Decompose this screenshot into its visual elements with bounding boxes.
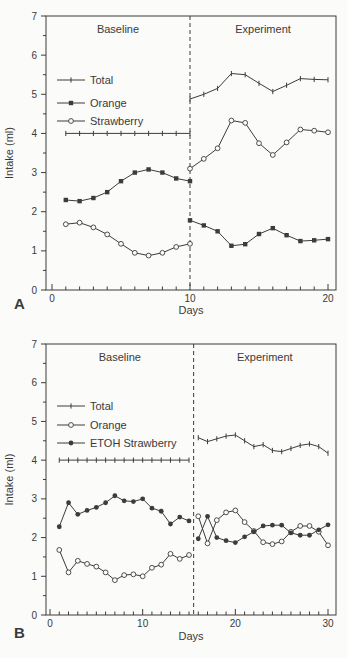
data-point: [261, 524, 266, 529]
y-tick-label: 5: [31, 416, 37, 427]
y-tick-label: 0: [31, 285, 37, 296]
data-point: [284, 140, 289, 145]
chart-b-canvas: 0102030Days01234567Intake (ml)BaselineEx…: [0, 330, 347, 658]
data-point: [201, 156, 206, 161]
data-point: [298, 239, 302, 243]
x-axis: 0102030Days: [47, 609, 334, 642]
legend-marker-square-filled: [69, 101, 73, 105]
panel-b: 0102030Days01234567Intake (ml)BaselineEx…: [0, 330, 347, 658]
x-tick-label: 20: [230, 618, 242, 629]
series-orange: [64, 167, 331, 248]
legend: TotalOrangeStrawberry: [57, 74, 144, 127]
data-point: [214, 535, 219, 540]
y-tick-label: 3: [31, 493, 37, 504]
legend-marker-circle-filled: [69, 441, 74, 446]
y-axis: 01234567Intake (ml): [3, 339, 46, 621]
legend-marker-circle-open: [69, 423, 74, 428]
x-tick-label: 20: [322, 293, 334, 304]
data-point: [214, 518, 219, 523]
data-point: [215, 146, 220, 151]
y-tick-label: 2: [31, 532, 37, 543]
data-point: [132, 250, 137, 255]
data-point: [177, 556, 182, 561]
data-point: [75, 558, 80, 563]
y-tick-label: 0: [31, 610, 37, 621]
data-point: [251, 529, 256, 534]
legend-marker-circle-open: [69, 119, 74, 124]
x-tick-label: 0: [47, 618, 53, 629]
x-axis: 01020Days: [49, 284, 334, 316]
data-point: [279, 539, 284, 544]
data-point: [298, 533, 303, 538]
data-point: [188, 179, 192, 183]
x-axis-title: Days: [178, 304, 204, 316]
data-point: [233, 508, 238, 513]
data-point: [215, 229, 219, 233]
data-point: [85, 561, 90, 566]
data-point: [85, 508, 90, 513]
data-point: [64, 198, 68, 202]
data-point: [112, 493, 117, 498]
data-point: [261, 540, 266, 545]
data-point: [146, 253, 151, 258]
data-point: [91, 225, 96, 230]
data-point: [257, 232, 261, 236]
data-point: [229, 118, 234, 123]
x-tick-label: 10: [184, 293, 196, 304]
data-point: [298, 524, 303, 529]
data-point: [150, 565, 155, 570]
data-point: [270, 542, 275, 547]
legend-label: Orange: [90, 97, 127, 109]
data-point: [205, 514, 210, 519]
data-point: [202, 223, 206, 227]
legend: TotalOrangeETOH Strawberry: [57, 400, 177, 449]
data-point: [224, 510, 229, 515]
y-tick-label: 1: [31, 571, 37, 582]
data-point: [146, 167, 150, 171]
data-point: [140, 574, 145, 579]
data-point: [271, 226, 275, 230]
y-tick-label: 4: [31, 455, 37, 466]
legend-label: Total: [90, 74, 113, 86]
data-point: [233, 540, 238, 545]
data-point: [316, 527, 321, 532]
data-point: [168, 522, 173, 527]
baseline-phase-label: Baseline: [97, 23, 139, 35]
data-point: [205, 541, 210, 546]
x-axis-title: Days: [178, 630, 204, 642]
legend-label: ETOH Strawberry: [90, 437, 177, 449]
data-point: [94, 505, 99, 510]
data-point: [326, 130, 331, 135]
y-tick-label: 6: [31, 377, 37, 388]
experiment-phase-label: Experiment: [235, 23, 291, 35]
data-point: [307, 524, 312, 529]
data-point: [196, 536, 201, 541]
data-point: [289, 531, 294, 536]
data-point: [57, 524, 62, 529]
data-point: [298, 127, 303, 132]
data-point: [122, 573, 127, 578]
data-point: [119, 241, 124, 246]
data-point: [224, 538, 229, 543]
data-point: [270, 153, 275, 158]
data-point: [188, 218, 192, 222]
data-point: [257, 141, 262, 146]
data-point: [326, 237, 330, 241]
data-point: [160, 250, 165, 255]
data-point: [77, 199, 81, 203]
data-point: [187, 553, 192, 558]
y-tick-label: 6: [31, 50, 37, 61]
plot-frame: [46, 344, 336, 615]
data-point: [312, 128, 317, 133]
y-tick-label: 7: [31, 11, 37, 22]
plot-frame: [46, 16, 336, 290]
data-point: [63, 222, 68, 227]
data-point: [103, 570, 108, 575]
data-point: [242, 534, 247, 539]
panel-label: A: [14, 295, 25, 312]
chart-a-canvas: 01020Days01234567Intake (ml)BaselineExpe…: [0, 0, 347, 330]
y-tick-label: 3: [31, 167, 37, 178]
x-tick-label: 30: [322, 618, 334, 629]
data-point: [177, 515, 182, 520]
data-point: [168, 551, 173, 556]
